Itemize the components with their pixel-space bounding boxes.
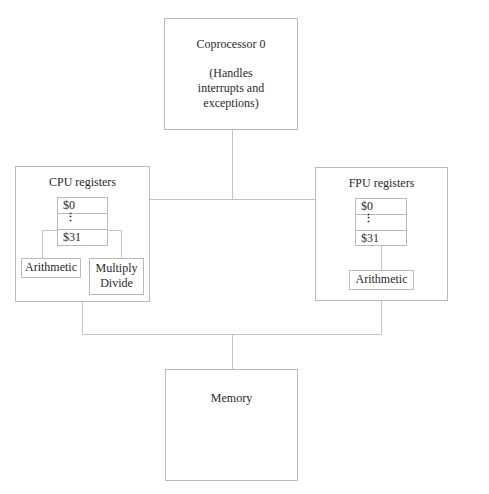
cpu-multiply-divide-unit: Multiply Divide xyxy=(89,258,144,295)
fpu-register-file: $0 ⋮ $31 xyxy=(355,198,407,246)
coprocessor-desc-line-2: interrupts and xyxy=(165,81,297,95)
coprocessor-desc-line-3: exceptions) xyxy=(165,96,297,110)
cpu-title: CPU registers xyxy=(16,175,149,189)
cpu-divide-label: Divide xyxy=(90,276,143,291)
fpu-register-31: $31 xyxy=(356,231,406,247)
fpu-title: FPU registers xyxy=(316,176,447,190)
coprocessor-0-box: Coprocessor 0 (Handles interrupts and ex… xyxy=(164,18,298,130)
cpu-register-31: $31 xyxy=(58,230,107,246)
connector-cpu-fpu xyxy=(149,199,315,200)
cpu-multiply-label: Multiply xyxy=(90,261,143,276)
cpu-register-ellipsis: ⋮ xyxy=(58,214,107,230)
cpu-register-file: $0 ⋮ $31 xyxy=(57,197,108,246)
fpu-reg-to-arith xyxy=(381,245,382,270)
memory-box: Memory xyxy=(165,369,298,481)
connector-fpu-bus xyxy=(381,300,382,335)
cpu-reg-to-muldiv-h xyxy=(107,230,122,231)
connector-coprocessor-link xyxy=(232,129,233,200)
cpu-arithmetic-label: Arithmetic xyxy=(25,260,77,274)
fpu-arithmetic-label: Arithmetic xyxy=(356,272,408,286)
cpu-reg-to-muldiv-v xyxy=(121,230,122,258)
fpu-arithmetic-unit: Arithmetic xyxy=(349,270,414,290)
memory-title: Memory xyxy=(166,391,297,405)
connector-bus-memory xyxy=(232,334,233,369)
fpu-register-ellipsis: ⋮ xyxy=(356,215,406,231)
connector-cpu-bus xyxy=(82,301,83,335)
coprocessor-desc-line-1: (Handles xyxy=(165,66,297,80)
cpu-reg-to-arith-v xyxy=(42,230,43,258)
cpu-arithmetic-unit: Arithmetic xyxy=(21,258,81,278)
cpu-reg-to-arith-h xyxy=(42,230,57,231)
coprocessor-title: Coprocessor 0 xyxy=(165,37,297,51)
